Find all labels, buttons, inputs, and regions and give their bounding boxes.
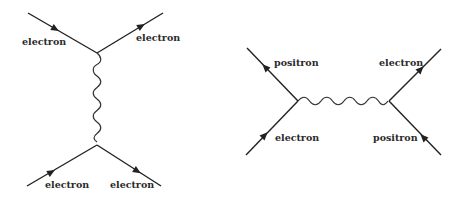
arrow-icon [136,21,146,31]
photon-propagator-horizontal [298,97,388,105]
arrow-icon [50,24,60,34]
label-bottom-left: electron [45,179,89,190]
arrow-icon [46,167,56,177]
label-bottom-right: positron [373,132,418,143]
label-top-left: electron [22,36,66,47]
label-bottom-left: electron [275,132,319,143]
label-top-right: electron [379,57,423,68]
feynman-diagrams-canvas: electron electron electron electron posi… [0,0,461,198]
photon-propagator-vertical [93,53,101,142]
positron-bottom-right-line [389,101,441,155]
annihilation-diagram: positron electron electron positron [246,48,441,155]
arrow-icon [132,166,143,176]
electron-bottom-left-line [246,101,298,155]
positron-top-left-line [247,48,298,101]
scattering-diagram: electron electron electron electron [22,13,180,190]
label-top-left: positron [274,57,319,68]
label-bottom-right: electron [110,179,154,190]
incoming-electron-top-line [28,13,97,53]
label-top-right: electron [136,32,180,43]
